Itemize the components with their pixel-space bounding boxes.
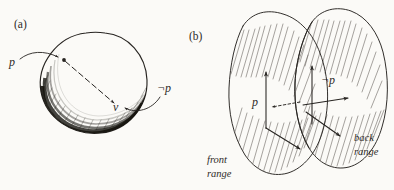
not-p-label-a: ¬p xyxy=(157,81,171,95)
panel-b-caption: (b) xyxy=(189,30,203,43)
back-right-arrow xyxy=(303,98,348,105)
panel-a: (a) xyxy=(8,18,171,134)
front-vector-frame: p xyxy=(251,72,300,149)
front-range-label-line2: range xyxy=(207,168,232,179)
p-leader-curve xyxy=(20,52,58,59)
panel-b: (b) xyxy=(189,9,387,179)
dashed-vector-arrow xyxy=(66,62,115,104)
front-range-ellipse xyxy=(229,12,328,175)
p-label-b: p xyxy=(251,95,258,109)
not-p-label-b: ¬p xyxy=(321,73,335,87)
v-label: v xyxy=(113,100,119,114)
back-range-label-line2: range xyxy=(354,146,379,157)
back-range-label-line1: back xyxy=(354,132,374,143)
panel-a-caption: (a) xyxy=(14,18,27,31)
figure-root: (a) xyxy=(0,0,394,190)
back-range-hatching xyxy=(297,18,384,166)
front-range-label-line1: front xyxy=(207,154,228,165)
p-label-a: p xyxy=(8,55,15,69)
shaded-crescent xyxy=(42,54,149,134)
